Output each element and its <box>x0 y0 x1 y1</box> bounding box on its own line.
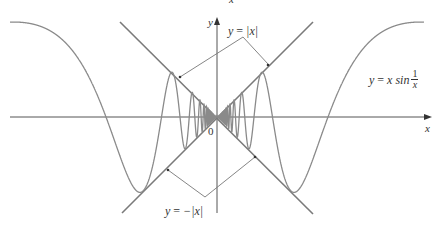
pointer-lower <box>168 157 255 197</box>
pointer-upper <box>180 37 268 77</box>
label-lhs: y <box>228 24 233 38</box>
label-lhs: y <box>369 74 374 86</box>
pointer-dot-icon <box>167 169 170 172</box>
label-lhs: y <box>165 204 170 218</box>
x-axis-label: x <box>425 123 430 134</box>
fraction-denominator: x <box>413 80 417 90</box>
y-axis-label: y <box>208 17 213 28</box>
y-axis-arrow-icon <box>214 17 220 25</box>
plot-canvas <box>0 0 439 229</box>
label-mid: x sin <box>387 74 409 86</box>
pointer-dot-icon <box>267 64 270 67</box>
label-rhs: −|x| <box>183 204 203 218</box>
label-y-equals-neg-abs-x: y = −|x| <box>165 205 203 217</box>
fraction: 1 x <box>411 69 418 90</box>
label-eq: = <box>173 204 180 218</box>
label-y-equals-abs-x: y = |x| <box>228 25 258 37</box>
label-eq: = <box>236 24 243 38</box>
label-curve-equation: y = x sin 1 x <box>369 69 418 90</box>
origin-label: 0 <box>208 126 214 137</box>
x-axis-arrow-icon <box>424 114 432 120</box>
pointer-dot-icon <box>179 76 182 79</box>
title-fragment: x <box>229 0 234 5</box>
label-eq: = <box>377 74 384 86</box>
label-rhs: |x| <box>246 24 258 38</box>
diagram-figure: x y x 0 y = |x| y = −|x| y = x sin 1 x <box>0 0 439 229</box>
pointer-dot-icon <box>254 156 257 159</box>
